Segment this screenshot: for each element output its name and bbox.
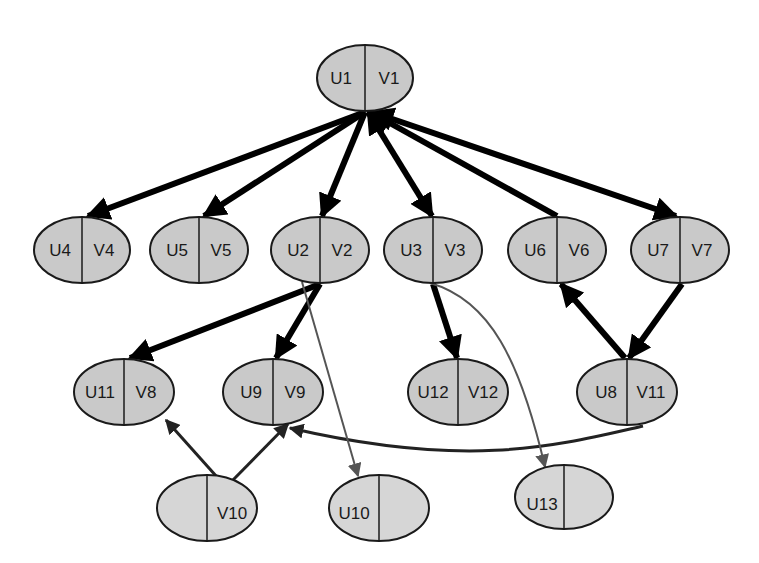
node-right-label: V9 [285, 383, 306, 402]
node-left-label: U11 [85, 383, 115, 402]
node-left-label: U10 [338, 504, 369, 523]
edge-u3-u12 [433, 284, 457, 358]
edge-v10-u9 [232, 424, 288, 481]
node-right-label: V8 [136, 383, 157, 402]
node-u6-v6[interactable]: U6 V6 [508, 217, 606, 283]
node-u13[interactable]: U13 [515, 465, 613, 529]
node-left-label: U12 [417, 383, 448, 402]
node-left-label: U4 [49, 241, 71, 260]
node-u12-v12[interactable]: U12 V12 [408, 359, 508, 425]
edge-u2-u11 [130, 284, 320, 358]
node-right-label: V2 [332, 241, 353, 260]
node-right-label: V7 [692, 241, 713, 260]
node-u11-v8[interactable]: U11 V8 [74, 359, 174, 425]
node-u1-v1[interactable]: U1 V1 [317, 45, 413, 111]
node-right-label: V5 [211, 241, 232, 260]
node-u9-v9[interactable]: U9 V9 [223, 359, 323, 425]
node-u5-v5[interactable]: U5 V5 [150, 217, 248, 283]
edge-v11-v9 [290, 426, 643, 451]
node-left-label: U8 [595, 383, 617, 402]
node-u3-v3[interactable]: U3 V3 [384, 217, 482, 283]
node-u4-v4[interactable]: U4 V4 [34, 217, 130, 283]
edge-v10-v8 [166, 420, 217, 477]
node-left-label: U9 [240, 383, 262, 402]
node-right-label: V6 [569, 241, 590, 260]
node-u2-v2[interactable]: U2 V2 [271, 217, 369, 283]
node-left-label: U13 [526, 495, 557, 514]
node-u10[interactable]: U10 [329, 475, 429, 541]
node-right-label: V3 [445, 241, 466, 260]
node-right-label: V10 [217, 504, 247, 523]
node-u7-v7[interactable]: U7 V7 [631, 217, 729, 283]
node-right-label: V11 [637, 383, 666, 402]
node-left-label: U3 [400, 241, 422, 260]
node-right-label: V1 [379, 69, 400, 88]
node-left-label: U2 [287, 241, 309, 260]
edges [88, 112, 682, 481]
node-left-label: U7 [647, 241, 669, 260]
edge-u8-u6 [561, 284, 625, 358]
node-right-label: V12 [468, 383, 498, 402]
node-v10[interactable]: V10 [157, 475, 257, 541]
node-right-label: V4 [94, 241, 115, 260]
node-u8-v11[interactable]: U8 V11 [577, 359, 677, 425]
edge-u7-u8 [629, 284, 682, 358]
node-left-label: U5 [166, 241, 188, 260]
node-left-label: U6 [524, 241, 546, 260]
dependency-graph: U1 V1 U4 V4 U5 V5 U2 V2 U3 V3 U6 V6 U7 V… [0, 0, 759, 563]
node-left-label: U1 [330, 69, 352, 88]
